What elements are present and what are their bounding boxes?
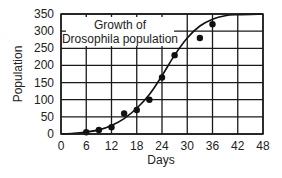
x-tick-label: 12 (105, 139, 119, 153)
y-axis-ticks: 050100150200250300350 (34, 7, 54, 141)
chart-title-line-1: Growth of (94, 18, 147, 32)
data-point (96, 127, 102, 133)
data-point (197, 35, 203, 41)
y-axis-label: Population (11, 46, 25, 103)
data-point (146, 97, 152, 103)
y-tick-label: 150 (34, 76, 54, 90)
data-point (209, 21, 215, 27)
x-tick-label: 30 (181, 139, 195, 153)
y-tick-label: 100 (34, 93, 54, 107)
data-point (171, 52, 177, 58)
x-tick-label: 42 (231, 139, 245, 153)
y-tick-label: 50 (41, 110, 55, 124)
data-point (121, 110, 127, 116)
x-tick-label: 36 (206, 139, 220, 153)
y-tick-label: 250 (34, 41, 54, 55)
chart-title-box: Growth of Drosophila population (62, 17, 178, 46)
x-axis-ticks: 0612182430364248 (58, 139, 270, 153)
data-point (159, 74, 165, 80)
x-tick-label: 24 (155, 139, 169, 153)
y-tick-label: 300 (34, 24, 54, 38)
x-tick-label: 0 (58, 139, 65, 153)
data-point (134, 107, 140, 113)
y-tick-label: 350 (34, 7, 54, 21)
chart-title-line-2: Drosophila population (62, 32, 178, 46)
y-tick-label: 200 (34, 58, 54, 72)
data-point (108, 124, 114, 130)
x-tick-label: 18 (130, 139, 144, 153)
population-growth-chart: Growth of Drosophila population 06121824… (0, 0, 282, 178)
x-axis-label: Days (147, 153, 174, 167)
x-tick-label: 48 (256, 139, 270, 153)
y-tick-label: 0 (47, 127, 54, 141)
x-tick-label: 6 (83, 139, 90, 153)
